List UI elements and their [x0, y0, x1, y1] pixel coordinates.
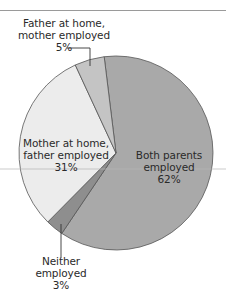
label-father-at-home: Father at home, mother employed 5% [14, 17, 114, 53]
label-line: Both parents [130, 149, 208, 161]
label-line: Mother at home, [22, 137, 110, 149]
label-value: 31% [22, 161, 110, 173]
label-line: mother employed [14, 29, 114, 41]
label-neither: Neither employed 3% [30, 255, 92, 291]
label-both-parents: Both parents employed 62% [130, 149, 208, 185]
label-line: employed [30, 267, 92, 279]
label-value: 3% [30, 279, 92, 291]
label-line: Neither [30, 255, 92, 267]
label-value: 5% [14, 41, 114, 53]
label-value: 62% [130, 173, 208, 185]
label-line: father employed [22, 149, 110, 161]
label-line: employed [130, 161, 208, 173]
label-mother-at-home: Mother at home, father employed 31% [22, 137, 110, 173]
label-line: Father at home, [14, 17, 114, 29]
